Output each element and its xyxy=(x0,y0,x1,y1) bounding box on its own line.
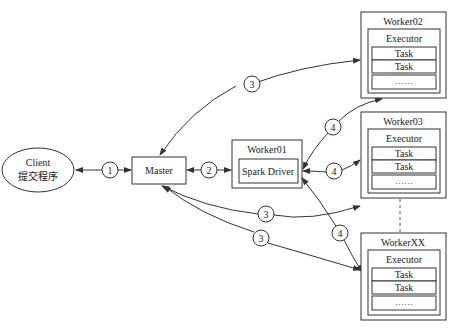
step-1-label: 1 xyxy=(108,165,113,176)
edge-driver-workerxx: 4 xyxy=(302,178,362,272)
worker02-task-2: Task xyxy=(395,61,414,72)
worker01-node: Worker01 Spark Driver xyxy=(232,140,302,188)
edge-client-master: 1 xyxy=(76,162,131,178)
worker02-executor: Executor xyxy=(386,33,423,44)
workerxx-more: …… xyxy=(395,297,413,307)
workerxx-node: WorkerXX Executor Task Task …… xyxy=(361,233,446,320)
worker03-title: Worker03 xyxy=(383,116,423,127)
worker01-title: Worker01 xyxy=(247,144,287,155)
step-3c-label: 3 xyxy=(259,233,264,244)
workerxx-executor: Executor xyxy=(386,254,423,265)
worker02-node: Worker02 Executor Task Task …… xyxy=(361,12,446,98)
worker03-executor: Executor xyxy=(386,133,423,144)
client-node: Client 提交程序 xyxy=(2,148,74,192)
worker03-more: …… xyxy=(395,176,413,186)
step-3a-label: 3 xyxy=(250,79,255,90)
worker02-more: …… xyxy=(395,76,413,86)
spark-architecture-diagram: Client 提交程序 1 Master 2 Worker01 Spark Dr… xyxy=(0,0,456,336)
client-label: Client xyxy=(26,157,51,168)
step-2-label: 2 xyxy=(207,165,212,176)
step-4c-label: 4 xyxy=(338,228,343,239)
worker03-task-1: Task xyxy=(395,148,414,159)
worker02-title: Worker02 xyxy=(383,16,423,27)
worker03-task-2: Task xyxy=(395,161,414,172)
worker02-task-1: Task xyxy=(395,48,414,59)
master-label: Master xyxy=(145,165,173,176)
workerxx-title: WorkerXX xyxy=(381,237,426,248)
edge-driver-worker03: 4 xyxy=(303,160,360,179)
workerxx-task-2: Task xyxy=(395,282,414,293)
step-3b-label: 3 xyxy=(264,209,269,220)
master-node: Master xyxy=(132,157,186,184)
workerxx-task-1: Task xyxy=(395,269,414,280)
edge-master-worker01: 2 xyxy=(187,162,231,178)
spark-driver-label: Spark Driver xyxy=(242,166,295,177)
step-4b-label: 4 xyxy=(332,166,337,177)
step-4a-label: 4 xyxy=(331,122,336,133)
client-sublabel: 提交程序 xyxy=(18,170,58,182)
edge-master-workerxx: 3 xyxy=(164,186,360,270)
worker03-node: Worker03 Executor Task Task …… xyxy=(361,112,446,198)
